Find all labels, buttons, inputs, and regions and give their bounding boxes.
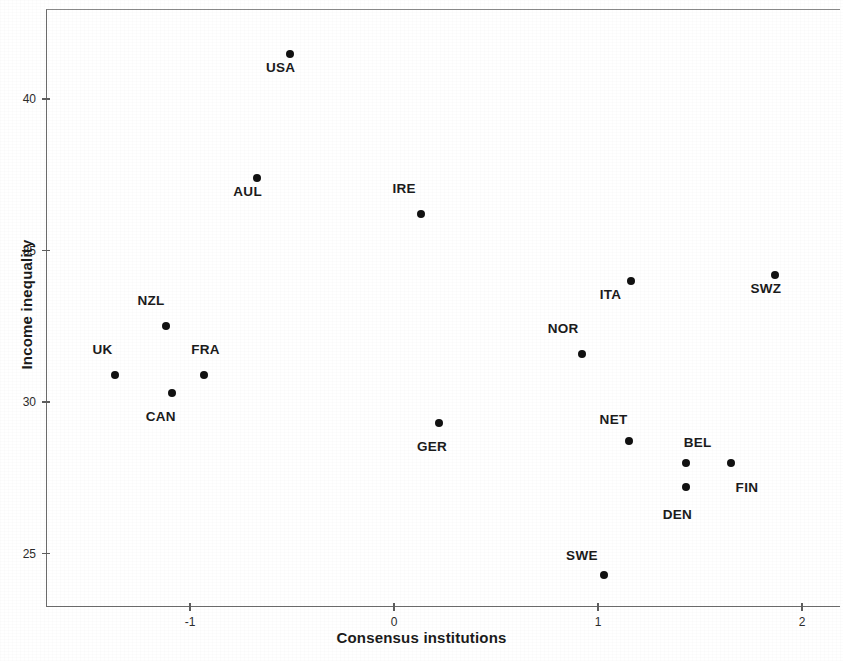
data-point <box>682 459 690 467</box>
data-point <box>600 571 608 579</box>
data-point-label: BEL <box>684 435 712 450</box>
x-axis-tick-label: 2 <box>782 615 822 629</box>
scatter-plot-figure: -1012 25303540 USAAULIRESWZITANZLNORUKFR… <box>0 0 843 661</box>
data-point-label: DEN <box>663 507 692 522</box>
x-axis-title: Consensus institutions <box>0 629 843 646</box>
data-point <box>417 210 425 218</box>
x-axis-tick-label: -1 <box>170 615 210 629</box>
x-axis-tick-label: 1 <box>578 615 618 629</box>
x-axis-tick <box>393 603 394 611</box>
data-point <box>627 277 635 285</box>
y-axis-tick-label: 40 <box>4 92 36 106</box>
data-point-label: IRE <box>393 181 416 196</box>
x-axis-tick <box>801 603 802 611</box>
x-axis-tick <box>189 603 190 611</box>
data-point-label: SWE <box>566 548 598 563</box>
y-axis-tick <box>42 553 50 554</box>
data-point <box>625 437 633 445</box>
data-point-label: AUL <box>233 184 262 199</box>
data-point-label: USA <box>266 60 295 75</box>
plot-area <box>46 9 840 607</box>
data-point-label: UK <box>93 342 113 357</box>
y-axis-title: Income inequality <box>18 175 35 435</box>
data-point <box>162 322 170 330</box>
data-point <box>682 483 690 491</box>
data-point-label: NOR <box>548 321 579 336</box>
y-axis-tick-label: 25 <box>4 547 36 561</box>
data-point <box>200 371 208 379</box>
data-point-label: ITA <box>600 287 622 302</box>
y-axis-tick <box>42 250 50 251</box>
data-point <box>286 50 294 58</box>
data-point-label: CAN <box>146 409 176 424</box>
data-point-label: FRA <box>191 342 220 357</box>
x-axis-tick <box>597 603 598 611</box>
data-point-label: GER <box>417 439 447 454</box>
y-axis-tick <box>42 401 50 402</box>
y-axis-tick <box>42 98 50 99</box>
x-axis-tick-label: 0 <box>374 615 414 629</box>
data-point-label: NZL <box>138 293 165 308</box>
data-point <box>168 389 176 397</box>
data-point-label: SWZ <box>750 281 781 296</box>
data-point <box>727 459 735 467</box>
data-point <box>111 371 119 379</box>
data-point <box>578 350 586 358</box>
data-point-label: FIN <box>736 480 759 495</box>
data-point-label: NET <box>600 412 628 427</box>
